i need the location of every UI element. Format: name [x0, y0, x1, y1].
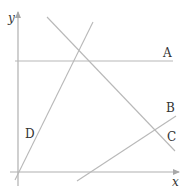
line-d: [15, 22, 93, 180]
line-c-label: C: [167, 131, 176, 143]
coordinate-diagram: [0, 0, 186, 191]
line-b: [77, 116, 176, 181]
line-d-label: D: [25, 128, 35, 140]
y-axis-label: y: [8, 12, 15, 24]
line-b-label: B: [166, 102, 175, 114]
x-axis-label: x: [172, 176, 179, 188]
line-a-label: A: [163, 47, 172, 59]
line-c: [47, 17, 175, 151]
